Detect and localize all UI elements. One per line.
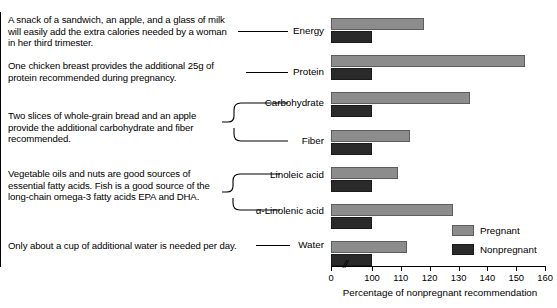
legend-label-pregnant: Pregnant [480,225,520,236]
x-axis-tick-0 [331,266,332,271]
bar-energy-pregnant [331,18,424,30]
x-axis-tick-label-110: 110 [386,272,416,283]
y-axis-line [0,12,1,267]
category-label-alpha-linolenic-acid: α-Linolenic acid [186,205,324,216]
annotation-carbohydrate-fiber: Two slices of whole-grain bread and an a… [8,110,220,145]
category-label-linoleic-acid: Linoleic acid [196,169,324,180]
bar-protein-nonpregnant [331,68,372,80]
x-axis-tick-140 [487,266,488,271]
chart-legend: Pregnant Nonpregnant [452,222,537,260]
annotation-energy: A snack of a sandwich, an apple, and a g… [8,14,236,49]
bar--linolenic-acid-nonpregnant [331,217,372,229]
annotation-fatty-acids: Vegetable oils and nuts are good sources… [8,168,226,203]
x-axis-title: Percentage of nonpregnant recommendation [331,287,549,298]
x-axis-tick-130 [459,266,460,271]
bar-water-pregnant [331,241,407,253]
x-axis-tick-label-150: 150 [501,272,531,283]
x-axis-tick-label-160: 160 [530,272,557,283]
x-axis-tick-label-0: 0 [316,272,346,283]
bar-carbohydrate-pregnant [331,92,470,104]
axis-break-marker: // [343,258,347,270]
bar-protein-pregnant [331,55,525,67]
x-axis-tick-110 [401,266,402,271]
legend-swatch-pregnant [452,225,474,236]
bar--linolenic-acid-pregnant [331,204,453,216]
x-axis-tick-120 [430,266,431,271]
bar-carbohydrate-nonpregnant [331,105,372,117]
category-label-water: Water [206,239,324,250]
x-axis-tick-160 [545,266,546,271]
category-label-carbohydrate: Carbohydrate [196,97,324,108]
bar-fiber-pregnant [331,130,410,142]
bar-linoleic-acid-pregnant [331,167,398,179]
x-axis-tick-label-120: 120 [415,272,445,283]
bar-fiber-nonpregnant [331,143,372,155]
x-axis-tick-150 [516,266,517,271]
x-axis-tick-100 [372,266,373,271]
x-axis-tick-label-100: 100 [357,272,387,283]
legend-item-nonpregnant: Nonpregnant [452,241,537,257]
category-label-energy: Energy [206,25,324,36]
legend-label-nonpregnant: Nonpregnant [480,244,537,255]
legend-item-pregnant: Pregnant [452,222,537,238]
x-axis-tick-label-130: 130 [444,272,474,283]
legend-swatch-nonpregnant [452,244,474,255]
category-label-protein: Protein [206,66,324,77]
bar-energy-nonpregnant [331,31,372,43]
bar-water-nonpregnant [331,254,372,266]
x-axis-tick-label-140: 140 [472,272,502,283]
bar-linoleic-acid-nonpregnant [331,180,372,192]
category-label-fiber: Fiber [206,135,324,146]
